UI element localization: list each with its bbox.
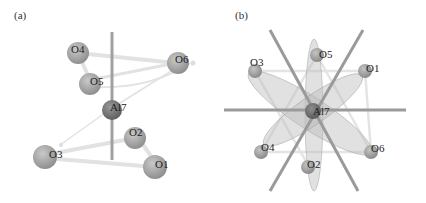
panel-label-a: (a) [14, 9, 27, 22]
label-o3: O3 [250, 56, 264, 68]
panel-b-octahedron-top-view: (b) O5 O3 [213, 0, 426, 203]
panel-b-diagram: (b) O5 O3 [213, 0, 426, 203]
label-o4: O4 [71, 43, 85, 55]
label-o6: O6 [175, 53, 189, 65]
arrow-tip [59, 143, 63, 147]
arrow-tip [191, 61, 196, 66]
label-al7: Al7 [110, 101, 127, 113]
label-o5: O5 [90, 75, 104, 87]
label-o3: O3 [49, 148, 63, 160]
label-al7: Al7 [313, 105, 330, 117]
label-o5: O5 [319, 48, 333, 60]
label-o6: O6 [371, 142, 385, 154]
label-o2: O2 [129, 126, 142, 138]
panel-a-octahedron-side-view: (a) O4 O6 O5 Al7 O2 O3 O1 [0, 0, 213, 203]
label-o4: O4 [261, 141, 275, 153]
panel-label-b: (b) [235, 9, 248, 22]
label-o2: O2 [307, 158, 320, 170]
label-o1: O1 [366, 62, 379, 74]
panel-a-diagram: (a) O4 O6 O5 Al7 O2 O3 O1 [0, 0, 213, 203]
label-o1: O1 [155, 158, 168, 170]
